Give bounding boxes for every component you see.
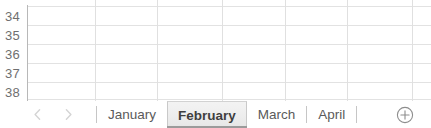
sheet-nav-arrows bbox=[22, 104, 84, 125]
row-header-cell[interactable]: 37 bbox=[0, 64, 27, 83]
gridline-horizontal bbox=[28, 82, 431, 83]
row-header-cell[interactable]: 35 bbox=[0, 26, 27, 45]
gridline-horizontal bbox=[28, 99, 431, 100]
sheet-tab-april[interactable]: April bbox=[307, 101, 356, 128]
gridline-vertical bbox=[95, 0, 96, 101]
gridline-vertical bbox=[285, 0, 286, 101]
gridline-horizontal bbox=[28, 6, 431, 7]
sheet-tab-january[interactable]: January bbox=[97, 101, 167, 128]
row-header-cell[interactable]: 36 bbox=[0, 45, 27, 64]
row-header-cell[interactable]: 34 bbox=[0, 7, 27, 26]
row-header-divider bbox=[27, 5, 28, 101]
row-header-cell[interactable]: 38 bbox=[0, 83, 27, 101]
gridline-horizontal bbox=[28, 44, 431, 45]
previous-sheet-arrow[interactable] bbox=[30, 107, 46, 123]
sheet-tab-march[interactable]: March bbox=[247, 101, 307, 128]
gridline-vertical bbox=[347, 0, 348, 101]
add-sheet-button[interactable] bbox=[396, 106, 414, 124]
sheet-tab-bar: January February March April bbox=[0, 101, 431, 128]
gridline-vertical bbox=[412, 0, 413, 101]
gridline-vertical bbox=[157, 0, 158, 101]
gridline-horizontal bbox=[28, 63, 431, 64]
sheet-tabs: January February March April bbox=[96, 101, 357, 128]
circle-plus-icon bbox=[396, 106, 414, 124]
cell-area[interactable] bbox=[28, 0, 431, 101]
row-header-column[interactable]: 34 35 36 37 38 bbox=[0, 0, 28, 101]
spreadsheet-bottom-pane: 34 35 36 37 38 January February bbox=[0, 0, 431, 128]
worksheet-grid[interactable]: 34 35 36 37 38 bbox=[0, 0, 431, 101]
gridline-horizontal bbox=[28, 25, 431, 26]
next-sheet-arrow[interactable] bbox=[61, 107, 77, 123]
tab-separator bbox=[356, 106, 357, 123]
gridline-vertical bbox=[222, 0, 223, 101]
sheet-tab-february[interactable]: February bbox=[167, 101, 247, 128]
